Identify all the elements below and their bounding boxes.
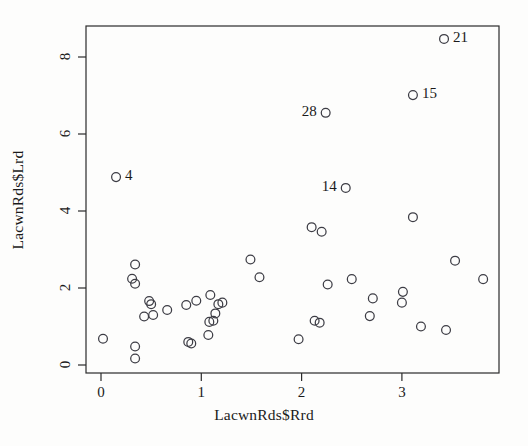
data-point	[341, 184, 350, 193]
data-point	[310, 316, 319, 325]
data-point	[206, 291, 215, 300]
plot-frame	[86, 26, 499, 373]
plot-border	[86, 26, 499, 373]
tick-marks	[78, 57, 402, 381]
y-tick-label: 0	[57, 355, 74, 375]
data-point	[409, 91, 418, 100]
data-point	[192, 296, 201, 305]
data-point	[255, 273, 264, 282]
y-tick-label: 8	[57, 47, 74, 67]
data-point	[442, 326, 451, 335]
y-tick-label: 2	[57, 278, 74, 298]
data-point	[307, 223, 316, 232]
data-point	[131, 354, 140, 363]
data-point-group	[99, 35, 488, 363]
data-point	[140, 312, 149, 321]
data-point	[317, 227, 326, 236]
data-point	[398, 298, 407, 307]
data-point	[99, 334, 108, 343]
data-point	[204, 331, 213, 340]
y-tick-label: 6	[57, 124, 74, 144]
data-point	[147, 300, 156, 309]
data-point	[409, 213, 418, 222]
data-point	[321, 108, 330, 117]
data-point-label: 21	[453, 29, 468, 46]
data-point	[451, 256, 460, 265]
data-point	[479, 275, 488, 284]
data-point	[112, 173, 121, 182]
data-point	[347, 275, 356, 284]
data-point	[187, 339, 196, 348]
y-tick-label: 4	[57, 201, 74, 221]
y-axis-title: LacwnRds$Lrd	[9, 151, 27, 250]
data-point	[149, 311, 158, 320]
x-axis-title: LacwnRds$Rrd	[0, 406, 528, 424]
data-point	[131, 260, 140, 269]
data-point	[315, 318, 324, 327]
data-point	[399, 287, 408, 296]
data-point	[368, 294, 377, 303]
plot-canvas	[0, 0, 528, 446]
data-point	[131, 342, 140, 351]
data-point	[323, 280, 332, 289]
data-point	[182, 301, 191, 310]
data-point-label: 14	[322, 178, 337, 195]
data-point	[145, 297, 154, 306]
data-point	[163, 306, 172, 315]
data-point	[440, 35, 449, 44]
data-point	[294, 335, 303, 344]
x-tick-label: 0	[91, 384, 111, 401]
data-point	[246, 255, 255, 264]
data-point-label: 4	[125, 167, 133, 184]
data-point-label: 15	[422, 85, 437, 102]
scatter-plot-figure: LacwnRds$Lrd LacwnRds$Rrd 012302468 4281…	[0, 0, 528, 446]
data-point	[365, 312, 374, 321]
data-point-label: 28	[302, 103, 317, 120]
x-tick-label: 1	[191, 384, 211, 401]
data-point	[417, 322, 426, 331]
x-tick-label: 3	[392, 384, 412, 401]
x-tick-label: 2	[292, 384, 312, 401]
y-axis-title-container: LacwnRds$Lrd	[0, 0, 36, 400]
